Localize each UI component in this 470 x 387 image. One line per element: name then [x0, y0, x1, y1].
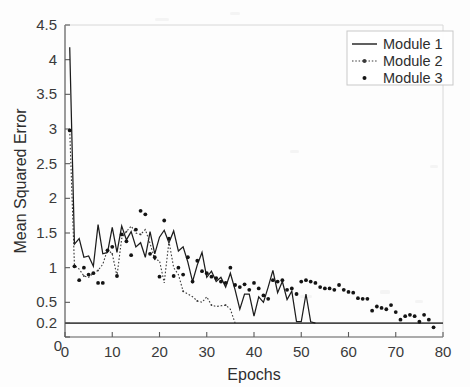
series-marker-module-3	[384, 307, 388, 311]
x-tick-label: 70	[387, 343, 404, 360]
legend-marker-module-2-dot	[363, 59, 367, 63]
series-marker-module-3	[361, 297, 365, 301]
series-marker-module-3	[243, 282, 247, 286]
series-marker-module-3	[351, 291, 355, 295]
series-marker-module-2	[182, 290, 184, 292]
series-marker-module-3	[200, 269, 204, 273]
scan-artifact	[155, 18, 169, 21]
series-marker-module-3	[427, 318, 431, 322]
series-marker-module-2	[140, 233, 142, 235]
y-tick-label: 1.5	[36, 224, 57, 241]
series-marker-module-3	[153, 255, 157, 259]
chart-figure: 00.20.511.522.533.544.501020304050607080…	[0, 0, 470, 387]
series-marker-module-3	[389, 303, 393, 307]
series-marker-module-3	[417, 320, 421, 324]
x-tick-label: 50	[293, 343, 310, 360]
series-marker-module-3	[195, 259, 199, 263]
legend-label-3: Module 3	[383, 70, 443, 86]
y-tick-label: 2	[49, 189, 57, 206]
series-marker-module-3	[238, 285, 242, 289]
x-tick-label: 60	[340, 343, 357, 360]
series-marker-module-3	[399, 318, 403, 322]
series-marker-module-3	[280, 278, 284, 282]
series-marker-module-3	[96, 281, 100, 285]
scan-artifact	[290, 150, 299, 153]
series-marker-module-3	[266, 297, 270, 301]
legend-label-1: Module 1	[383, 36, 443, 52]
legend-marker-module-3	[363, 76, 367, 80]
series-marker-module-3	[120, 232, 124, 236]
series-marker-module-3	[205, 271, 209, 275]
series-marker-module-3	[139, 209, 143, 213]
series-line-module-2	[70, 130, 235, 323]
series-marker-module-3	[271, 278, 275, 282]
series-marker-module-3	[181, 273, 185, 277]
series-marker-module-3	[228, 266, 232, 270]
y-tick-label: 0.5	[36, 293, 57, 310]
series-marker-module-3	[82, 266, 86, 270]
series-marker-module-3	[101, 281, 105, 285]
scan-artifact	[415, 300, 423, 303]
series-marker-module-3	[252, 281, 256, 285]
series-marker-module-3	[375, 305, 379, 309]
series-marker-module-3	[413, 314, 417, 318]
scan-artifact	[380, 290, 390, 294]
series-marker-module-3	[370, 309, 374, 313]
series-marker-module-3	[394, 310, 398, 314]
series-marker-module-3	[257, 287, 261, 291]
series-marker-module-2	[225, 304, 227, 306]
series-marker-module-3	[191, 280, 195, 284]
series-marker-module-3	[177, 266, 181, 270]
y-tick-label: 4	[49, 51, 57, 68]
series-marker-module-2	[83, 275, 85, 277]
series-marker-module-3	[304, 278, 308, 282]
series-marker-module-3	[172, 274, 176, 278]
series-marker-module-3	[210, 275, 214, 279]
series-marker-module-3	[106, 248, 110, 252]
series-marker-module-3	[77, 278, 81, 282]
legend-label-2: Module 2	[383, 53, 443, 69]
series-marker-module-2	[168, 240, 170, 242]
y-tick-label: 0.2	[36, 314, 57, 331]
series-marker-module-3	[314, 281, 318, 285]
series-marker-module-3	[110, 245, 114, 249]
series-marker-module-3	[186, 255, 190, 259]
series-marker-module-3	[408, 313, 412, 317]
series-marker-module-2	[126, 231, 128, 233]
series-marker-module-3	[380, 306, 384, 310]
scan-artifact	[430, 165, 438, 168]
y-axis-title: Mean Squared Error	[12, 108, 29, 254]
y-tick-label: 4.5	[36, 16, 57, 33]
scan-artifact	[230, 12, 240, 15]
series-marker-module-3	[68, 128, 72, 132]
series-marker-module-3	[233, 283, 237, 287]
series-marker-module-3	[332, 288, 336, 292]
series-marker-module-3	[366, 297, 370, 301]
series-marker-module-3	[214, 276, 218, 280]
series-marker-module-3	[299, 280, 303, 284]
series-marker-module-3	[295, 292, 299, 296]
series-marker-module-3	[219, 280, 223, 284]
series-marker-module-3	[115, 274, 119, 278]
series-marker-module-2	[196, 300, 198, 302]
series-marker-module-3	[148, 252, 152, 256]
series-marker-module-3	[134, 228, 138, 232]
series-marker-module-3	[342, 288, 346, 292]
series-marker-module-3	[91, 271, 95, 275]
x-tick-label: 0	[61, 343, 69, 360]
series-marker-module-3	[337, 283, 341, 287]
series-marker-module-3	[285, 288, 289, 292]
series-marker-module-3	[73, 264, 77, 268]
y-tick-label: 3.5	[36, 85, 57, 102]
series-marker-module-3	[422, 313, 426, 317]
series-marker-module-3	[432, 325, 436, 329]
y-tick-label: 1	[49, 259, 57, 276]
series-marker-module-2	[97, 270, 99, 272]
series-marker-module-3	[143, 212, 147, 216]
series-marker-module-2	[111, 253, 113, 255]
series-marker-module-3	[125, 239, 129, 243]
y-tick-label: 3	[49, 120, 57, 137]
x-tick-label: 20	[151, 343, 168, 360]
series-marker-module-3	[356, 296, 360, 300]
series-marker-module-3	[323, 287, 327, 291]
